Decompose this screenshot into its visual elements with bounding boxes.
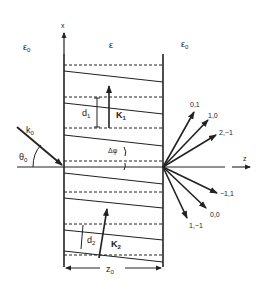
incident-angle-arc — [33, 145, 41, 167]
order-label-2-m1: 2,−1 — [219, 129, 233, 136]
order-label-0-1: 0,1 — [190, 101, 200, 108]
tilt-angle-label: Δφ — [108, 147, 118, 155]
order-label-0-0: 0,0 — [210, 211, 220, 218]
x-axis-label: x — [61, 22, 65, 29]
left-medium-label: ε0 — [23, 42, 31, 53]
k1-label: K1 — [116, 110, 127, 121]
order-label-1-0: 1,0 — [208, 112, 218, 119]
d1-label: d1 — [82, 108, 91, 119]
order-1-m1 — [163, 167, 187, 218]
dashed-fringes — [64, 65, 163, 255]
order-label-1-m1: 1,−1 — [189, 222, 203, 229]
k2-label: K2 — [111, 239, 122, 250]
right-medium-label: ε0 — [181, 39, 189, 50]
grating-medium-label: ε — [109, 40, 113, 50]
order-m1-1 — [163, 167, 217, 193]
diffracted-orders — [163, 112, 217, 218]
thickness-label: z0 — [106, 264, 115, 275]
d2-label: d2 — [87, 235, 96, 246]
d2-marker — [81, 225, 83, 249]
grating-diagram: x ε0 ε ε0 d1 K1 Δφ d2 K2 z0 — [0, 0, 264, 289]
incident-angle-label: θ0 — [19, 152, 28, 163]
order-0-0 — [163, 167, 206, 208]
tilt-arc — [124, 147, 126, 156]
incident-wavevector-label: k0 — [26, 125, 35, 136]
order-label-m1-1: −1,1 — [220, 190, 234, 197]
z-axis-label: z — [243, 155, 247, 162]
